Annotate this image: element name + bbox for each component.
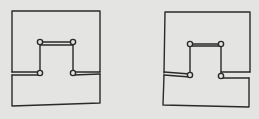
hinge-joint-icon bbox=[37, 39, 42, 44]
left-outer-lower bbox=[12, 74, 100, 106]
hinge-joint-icon bbox=[70, 70, 75, 75]
right-inner-notch bbox=[190, 44, 221, 76]
left-figure bbox=[12, 11, 100, 106]
hinge-joint-icon bbox=[218, 73, 223, 78]
right-arm bbox=[221, 72, 250, 78]
right-wedge-arm bbox=[164, 72, 190, 77]
left-wedge-arm bbox=[73, 72, 100, 75]
diagram-canvas bbox=[0, 0, 259, 119]
hinge-joint-icon bbox=[187, 41, 192, 46]
hinge-joint-icon bbox=[218, 41, 223, 46]
right-outer-lower bbox=[163, 75, 249, 107]
hinge-joint-icon bbox=[187, 72, 192, 77]
hinge-joint-icon bbox=[70, 39, 75, 44]
right-joints bbox=[187, 41, 223, 78]
hinge-joint-icon bbox=[37, 70, 42, 75]
left-arm bbox=[12, 72, 40, 75]
right-outer-upper bbox=[164, 12, 250, 73]
right-figure bbox=[163, 12, 250, 107]
left-inner-notch bbox=[40, 42, 73, 73]
